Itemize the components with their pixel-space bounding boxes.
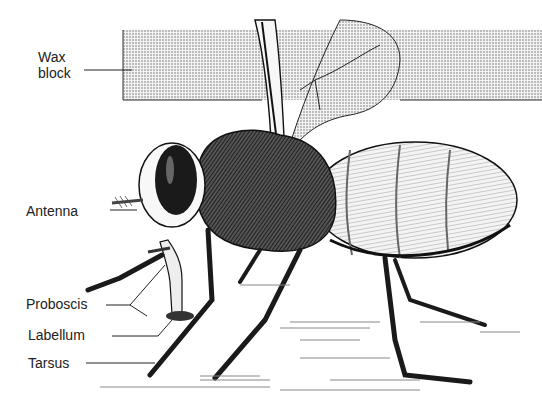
label-labellum: Labellum	[28, 327, 85, 343]
abdomen	[313, 142, 517, 258]
ground-lines	[100, 285, 520, 390]
label-tarsus: Tarsus	[28, 355, 69, 371]
antenna	[112, 196, 143, 208]
thorax	[198, 130, 336, 251]
fly-illustration	[0, 0, 542, 414]
labellum	[166, 311, 194, 321]
proboscis	[148, 240, 194, 321]
fly-diagram: Wax block Antenna Proboscis Labellum Tar…	[0, 0, 542, 414]
label-proboscis: Proboscis	[26, 296, 87, 312]
head	[139, 143, 205, 227]
compound-eye	[155, 145, 197, 215]
label-wax-block: Wax block	[38, 49, 71, 81]
label-antenna: Antenna	[26, 203, 78, 219]
